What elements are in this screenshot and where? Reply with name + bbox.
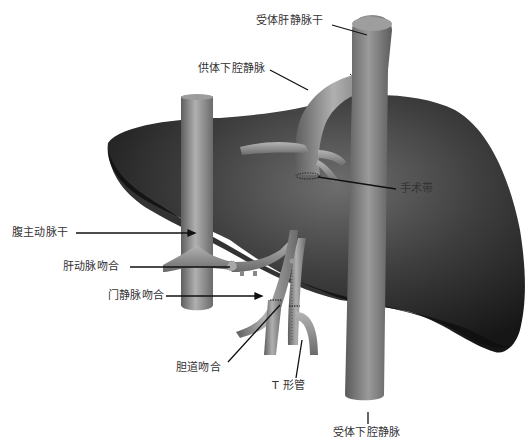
label-hepatic-artery-anastomosis: 肝动脉吻合 — [63, 261, 119, 273]
label-donor-ivc: 供体下腔静脉 — [198, 63, 265, 75]
label-celiac-trunk: 腹主动脉干 — [12, 227, 68, 239]
label-t-tube: T 形管 — [272, 380, 305, 392]
label-recipient-hepatic-vein-trunk: 受体肝静脉干 — [256, 15, 323, 27]
label-bile-duct-anastomosis: 胆道吻合 — [176, 362, 221, 374]
recipient-ivc-vessel — [345, 15, 392, 400]
label-recipient-ivc: 受体下腔静脉 — [333, 427, 400, 439]
label-portal-vein-anastomosis: 门静脉吻合 — [108, 290, 164, 302]
label-surgical-band: 手术带 — [400, 183, 434, 195]
